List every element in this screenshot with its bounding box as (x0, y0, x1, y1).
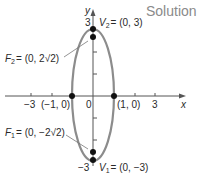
y-axis-label: y (84, 5, 91, 16)
left-intercept-label: (−1, 0) (41, 99, 70, 110)
x-tick-label-neg3: −3 (24, 99, 36, 110)
y-tick-label-3: 3 (85, 17, 91, 28)
origin-label: 0 (86, 99, 92, 110)
ellipse-diagram: Solution −3 3 x 0 y 3 −3 (−1, 0) (1, 0) … (0, 0, 197, 173)
x-tick-label-3: 3 (152, 99, 158, 110)
focus-f2-label: F2= (0, 2√2) (5, 53, 59, 65)
focus-f2-point (90, 34, 96, 40)
x-axis-label: x (180, 99, 187, 110)
x-axis: −3 3 x 0 (5, 93, 187, 110)
vertex-v1-point (90, 157, 96, 163)
focus-f1-label: F1= (0, −2√2) (5, 127, 65, 139)
vertex-v2-point (90, 26, 96, 32)
right-intercept-label: (1, 0) (117, 99, 140, 110)
y-axis-arrow-icon (91, 9, 96, 16)
solution-title: Solution (146, 3, 197, 19)
y-tick-label-neg3: −3 (78, 162, 90, 173)
vertex-v2-label: V2= (0, 3) (99, 17, 143, 29)
focus-f1-point (90, 149, 96, 155)
vertex-v1-label: V1= (0, −3) (99, 162, 148, 173)
x-axis-arrow-icon (179, 94, 186, 99)
